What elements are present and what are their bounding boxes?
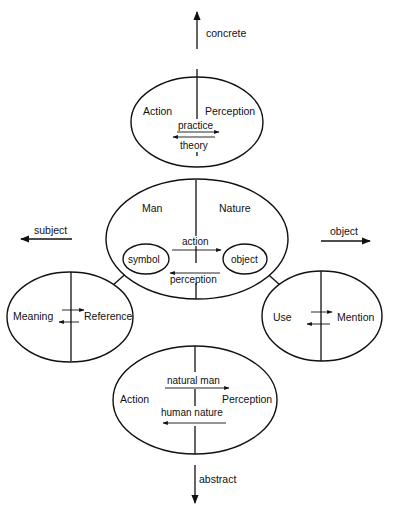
perception-label: perception xyxy=(170,274,217,285)
concrete-label: concrete xyxy=(206,27,246,39)
object-axis-label: object xyxy=(330,225,358,237)
bottom-ellipse: Action Perception natural man human natu… xyxy=(113,346,277,454)
semiotic-diagram: concrete Action Perception practice theo… xyxy=(0,0,394,512)
bottom-right-label: Perception xyxy=(222,393,272,405)
meaning-label: Meaning xyxy=(13,310,53,322)
natural-man-label: natural man xyxy=(167,375,220,386)
abstract-label: abstract xyxy=(199,473,236,485)
theory-label: theory xyxy=(180,140,208,151)
man-label: Man xyxy=(142,202,163,214)
subject-axis: subject xyxy=(21,224,72,239)
human-nature-label: human nature xyxy=(161,407,223,418)
nature-label: Nature xyxy=(219,202,251,214)
mention-label: Mention xyxy=(337,311,375,323)
symbol-label: symbol xyxy=(128,254,160,265)
subject-label: subject xyxy=(34,224,67,236)
bottom-left-label: Action xyxy=(120,393,149,405)
action-label: action xyxy=(182,236,209,247)
top-right-label: Perception xyxy=(205,105,255,117)
left-ellipse: Meaning Reference xyxy=(7,272,133,362)
abstract-axis: abstract xyxy=(195,465,236,503)
reference-label: Reference xyxy=(84,310,133,322)
practice-label: practice xyxy=(178,120,213,131)
right-ellipse: Use Mention xyxy=(262,271,382,361)
concrete-axis: concrete xyxy=(197,12,246,49)
use-label: Use xyxy=(273,311,292,323)
object-axis: object xyxy=(321,225,370,241)
top-left-label: Action xyxy=(143,105,172,117)
top-ellipse: Action Perception practice theory xyxy=(131,69,263,167)
object-label: object xyxy=(231,254,258,265)
center-ellipse: Man Nature symbol object action percepti… xyxy=(106,179,288,299)
